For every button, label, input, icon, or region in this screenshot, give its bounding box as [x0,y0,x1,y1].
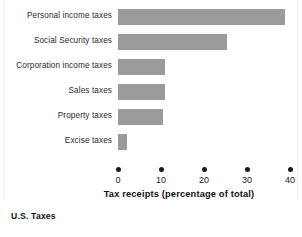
x-tick-label: 20 [190,175,218,186]
bar-social-security-taxes [118,34,227,50]
bar-category-label: Social Security taxes [0,36,112,46]
bar-corporation-income-taxes [118,59,165,75]
bar-personal-income-taxes [118,9,285,25]
bar-row: Personal income taxes [0,8,302,33]
bar-category-label: Property taxes [0,111,112,121]
x-tick-label: 30 [233,175,261,186]
figure-caption: U.S. Taxes [11,211,296,230]
bar-row: Property taxes [0,108,302,133]
x-axis: 0 10 20 30 40 Tax receipts (percentage o… [0,160,302,200]
caption-body [11,224,296,230]
bar-category-label: Sales taxes [0,86,112,96]
tick-dot-icon [288,167,293,172]
bar-row: Sales taxes [0,83,302,108]
x-tick-label: 10 [147,175,175,186]
x-tick-label: 40 [276,175,302,186]
bar-sales-taxes [118,84,165,100]
bar-row: Excise taxes [0,133,302,158]
caption-title: U.S. Taxes [11,211,296,222]
bar-category-label: Corporation income taxes [0,61,112,71]
x-axis-title: Tax receipts (percentage of total) [0,189,302,199]
tick-dot-icon [245,167,250,172]
bar-excise-taxes [118,134,127,150]
bar-row: Social Security taxes [0,33,302,58]
bar-category-label: Excise taxes [0,136,112,146]
tick-dot-icon [159,167,164,172]
tick-dot-icon [202,167,207,172]
x-tick-label: 0 [104,175,132,186]
plot-area: Personal income taxes Social Security ta… [0,0,302,160]
bar-property-taxes [118,109,163,125]
bar-category-label: Personal income taxes [0,11,112,21]
tick-dot-icon [116,167,121,172]
bar-row: Corporation income taxes [0,58,302,83]
figure-us-taxes: Personal income taxes Social Security ta… [0,0,302,237]
